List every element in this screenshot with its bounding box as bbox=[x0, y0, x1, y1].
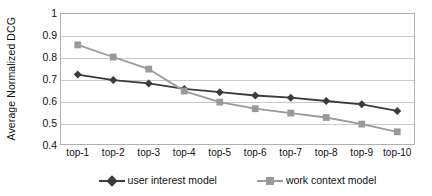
data-point-square bbox=[181, 88, 188, 95]
x-tick-label: top-5 bbox=[208, 147, 231, 159]
data-point-diamond bbox=[287, 94, 295, 102]
x-tick-label: top-8 bbox=[315, 147, 338, 159]
y-tick-label: 0.8 bbox=[3, 52, 57, 62]
chart-legend: user interest modelwork context model bbox=[60, 170, 415, 190]
y-tick-label: 0.7 bbox=[3, 74, 57, 84]
x-tick-label: top-10 bbox=[383, 147, 411, 159]
x-tick-label: top-3 bbox=[137, 147, 160, 159]
legend-label: work context model bbox=[286, 174, 376, 186]
y-tick-label: 0.6 bbox=[3, 96, 57, 106]
y-tick-label: 1 bbox=[3, 8, 57, 18]
y-tick-label: 0.9 bbox=[3, 30, 57, 40]
data-point-square bbox=[252, 105, 259, 112]
legend-entry: user interest model bbox=[99, 174, 217, 186]
chart-container: Average Normalized DCG 10.90.80.70.60.50… bbox=[0, 0, 432, 196]
y-tick-label: 0.5 bbox=[3, 118, 57, 128]
data-point-diamond bbox=[74, 71, 82, 79]
data-point-square bbox=[110, 54, 117, 61]
data-point-square bbox=[74, 42, 81, 49]
data-point-square bbox=[145, 66, 152, 73]
legend-entry: work context model bbox=[257, 174, 376, 186]
legend-swatch-square-icon bbox=[257, 175, 283, 186]
x-axis-tick-labels: top-1top-2top-3top-4top-5top-6top-7top-8… bbox=[60, 147, 415, 161]
data-point-diamond bbox=[251, 92, 259, 100]
data-point-square bbox=[216, 99, 223, 106]
x-tick-label: top-9 bbox=[350, 147, 373, 159]
x-tick-label: top-7 bbox=[279, 147, 302, 159]
data-point-diamond bbox=[216, 88, 224, 96]
data-point-diamond bbox=[322, 97, 330, 105]
x-tick-label: top-6 bbox=[244, 147, 267, 159]
data-point-diamond bbox=[109, 76, 117, 84]
y-tick-label: 0.4 bbox=[3, 140, 57, 150]
data-point-diamond bbox=[145, 79, 153, 87]
legend-swatch-diamond-icon bbox=[99, 175, 125, 186]
y-axis-tick-labels: 10.90.80.70.60.50.4 bbox=[0, 13, 57, 145]
data-point-square bbox=[287, 110, 294, 117]
x-tick-label: top-4 bbox=[173, 147, 196, 159]
series-line bbox=[78, 45, 398, 132]
data-point-square bbox=[394, 128, 401, 135]
legend-label: user interest model bbox=[128, 174, 217, 186]
data-point-diamond bbox=[393, 107, 401, 115]
data-point-square bbox=[358, 121, 365, 128]
data-point-diamond bbox=[358, 100, 366, 108]
series-layer bbox=[60, 13, 415, 145]
data-point-square bbox=[323, 114, 330, 121]
x-tick-label: top-2 bbox=[102, 147, 125, 159]
x-tick-label: top-1 bbox=[66, 147, 89, 159]
